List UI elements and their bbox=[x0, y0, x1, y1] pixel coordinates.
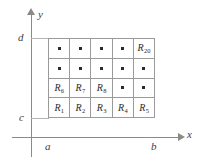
cell-r4c5: R20 bbox=[134, 39, 155, 59]
tick-label-b: b bbox=[151, 140, 157, 152]
cell-label: R4 bbox=[118, 103, 127, 113]
cell-dot-marker bbox=[79, 67, 82, 70]
cell-dot-marker bbox=[121, 67, 124, 70]
cell-dot-marker bbox=[121, 86, 124, 89]
cell-label: R3 bbox=[97, 103, 106, 113]
cell-r3c2 bbox=[70, 59, 91, 79]
cell-dot-marker bbox=[142, 86, 145, 89]
subrectangle-grid: R20R6R7R8R1R2R3R4R5 bbox=[48, 38, 155, 118]
cell-dot-marker bbox=[58, 47, 61, 50]
tick-label-c: c bbox=[19, 111, 24, 123]
cell-label: R8 bbox=[97, 83, 106, 93]
cell-r3c1 bbox=[49, 59, 70, 79]
cell-r1c3: R3 bbox=[91, 98, 112, 118]
cell-dot-marker bbox=[100, 47, 103, 50]
cell-label: R1 bbox=[54, 103, 63, 113]
cell-dot-marker bbox=[58, 67, 61, 70]
guide-line-d bbox=[31, 38, 49, 39]
cell-r1c1: R1 bbox=[49, 98, 70, 118]
cell-dot-marker bbox=[79, 47, 82, 50]
cell-label: R5 bbox=[139, 103, 148, 113]
cell-r1c4: R4 bbox=[113, 98, 134, 118]
x-axis-arrowhead-icon bbox=[178, 133, 185, 141]
y-axis-label: y bbox=[38, 8, 43, 20]
cell-r2c2: R7 bbox=[70, 79, 91, 99]
cell-dot-marker bbox=[100, 67, 103, 70]
cell-r4c1 bbox=[49, 39, 70, 59]
cell-dot-marker bbox=[121, 47, 124, 50]
cell-r3c4 bbox=[113, 59, 134, 79]
cell-r1c5: R5 bbox=[134, 98, 155, 118]
cell-r4c3 bbox=[91, 39, 112, 59]
x-axis-label: x bbox=[187, 128, 192, 140]
guide-line-c bbox=[31, 118, 49, 119]
cell-r2c1: R6 bbox=[49, 79, 70, 99]
cell-r3c3 bbox=[91, 59, 112, 79]
cell-label: R2 bbox=[76, 103, 85, 113]
cell-label: R6 bbox=[54, 83, 63, 93]
cell-r4c2 bbox=[70, 39, 91, 59]
cell-label: R7 bbox=[76, 83, 85, 93]
cell-r2c4 bbox=[113, 79, 134, 99]
cell-r2c5 bbox=[134, 79, 155, 99]
y-axis-arrowhead-icon bbox=[27, 8, 35, 15]
y-axis-line bbox=[31, 14, 32, 157]
math-figure-partitioned-rectangle: x y d c a b R20R6R7R8R1R2R3R4R5 bbox=[0, 0, 201, 165]
cell-r2c3: R8 bbox=[91, 79, 112, 99]
tick-label-a: a bbox=[45, 140, 51, 152]
cell-label: R20 bbox=[138, 43, 151, 53]
cell-r1c2: R2 bbox=[70, 98, 91, 118]
x-axis-line bbox=[12, 137, 180, 138]
cell-dot-marker bbox=[142, 67, 145, 70]
cell-r4c4 bbox=[113, 39, 134, 59]
cell-r3c5 bbox=[134, 59, 155, 79]
tick-label-d: d bbox=[18, 31, 24, 43]
